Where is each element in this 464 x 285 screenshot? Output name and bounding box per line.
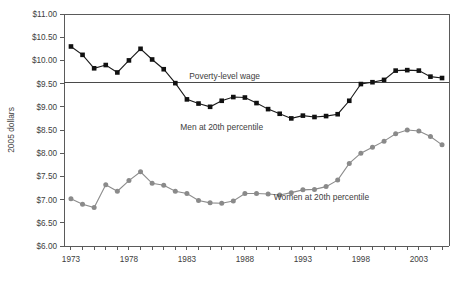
data-point-men xyxy=(324,114,329,119)
data-point-women xyxy=(103,182,108,187)
series-annotation-women: Women at 20th percentile xyxy=(274,192,370,202)
data-point-men xyxy=(417,68,422,73)
data-point-women xyxy=(347,161,352,166)
y-tick-label: $7.00 xyxy=(37,196,58,205)
chart-figure: $6.00$6.50$7.00$7.50$8.00$8.50$9.00$9.50… xyxy=(0,0,464,285)
data-point-men xyxy=(393,68,398,73)
data-point-women xyxy=(68,196,73,201)
data-point-men xyxy=(92,66,97,71)
x-tick-label: 1988 xyxy=(236,255,255,264)
data-point-women xyxy=(150,181,155,186)
data-point-men xyxy=(138,47,143,52)
x-tick-label: 1993 xyxy=(294,255,313,264)
y-tick-label: $7.50 xyxy=(37,172,58,181)
data-point-women xyxy=(440,142,445,147)
data-point-men xyxy=(185,97,190,102)
data-point-men xyxy=(289,116,294,121)
y-tick-label: $9.50 xyxy=(37,80,58,89)
data-point-men xyxy=(115,70,120,75)
y-tick-label: $11.00 xyxy=(33,10,58,19)
data-point-women xyxy=(92,205,97,210)
data-point-men xyxy=(405,68,410,73)
poverty-level-wage-label: Poverty-level wage xyxy=(189,71,260,81)
data-point-women xyxy=(393,131,398,136)
data-point-men xyxy=(127,58,132,63)
data-point-women xyxy=(405,128,410,133)
data-point-women xyxy=(231,198,236,203)
data-point-women xyxy=(428,134,433,139)
data-point-men xyxy=(173,81,178,86)
data-point-women xyxy=(219,201,224,206)
data-point-men xyxy=(440,76,445,81)
data-point-men xyxy=(428,74,433,79)
data-point-men xyxy=(277,111,282,116)
y-tick-label: $9.00 xyxy=(37,103,58,112)
data-point-men xyxy=(196,101,201,106)
data-point-women xyxy=(115,189,120,194)
data-point-women xyxy=(161,183,166,188)
data-point-men xyxy=(335,112,340,117)
data-point-women xyxy=(208,200,213,205)
data-point-men xyxy=(312,115,317,120)
data-point-men xyxy=(370,80,375,85)
data-point-men xyxy=(208,105,213,110)
x-tick-label: 2003 xyxy=(410,255,429,264)
data-point-men xyxy=(266,107,271,112)
y-tick-label: $6.50 xyxy=(37,219,58,228)
data-point-men xyxy=(359,82,364,87)
y-tick-label: $8.50 xyxy=(37,126,58,135)
x-tick-label: 1983 xyxy=(178,255,197,264)
line-chart: $6.00$6.50$7.00$7.50$8.00$8.50$9.00$9.50… xyxy=(0,0,464,285)
series-annotation-men: Men at 20th percentile xyxy=(180,122,263,132)
data-point-women xyxy=(80,202,85,207)
data-point-men xyxy=(219,98,224,103)
data-point-men xyxy=(347,98,352,103)
data-point-men xyxy=(301,113,306,118)
y-tick-label: $6.00 xyxy=(37,242,58,251)
data-point-women xyxy=(242,191,247,196)
data-point-men xyxy=(254,101,259,106)
y-tick-label: $10.00 xyxy=(32,56,57,65)
x-tick-label: 1998 xyxy=(352,255,371,264)
data-point-women xyxy=(335,178,340,183)
data-point-men xyxy=(69,44,74,49)
data-point-men xyxy=(150,57,155,62)
data-point-women xyxy=(358,151,363,156)
data-point-women xyxy=(196,198,201,203)
data-point-men xyxy=(231,95,236,100)
x-tick-label: 1978 xyxy=(120,255,139,264)
data-point-women xyxy=(382,139,387,144)
x-tick-label: 1973 xyxy=(62,255,81,264)
y-tick-label: $8.00 xyxy=(37,149,58,158)
data-point-women xyxy=(266,192,271,197)
data-point-women xyxy=(184,191,189,196)
data-point-women xyxy=(138,169,143,174)
data-point-men xyxy=(382,78,387,83)
data-point-women xyxy=(173,189,178,194)
data-point-men xyxy=(161,67,166,72)
data-point-women xyxy=(324,184,329,189)
data-point-women xyxy=(254,191,259,196)
y-tick-label: $10.50 xyxy=(32,33,57,42)
data-point-women xyxy=(416,128,421,133)
data-point-women xyxy=(126,178,131,183)
data-point-men xyxy=(103,63,108,68)
data-point-men xyxy=(243,95,248,100)
data-point-women xyxy=(370,145,375,150)
y-axis-title: 2005 dollars xyxy=(6,107,16,153)
data-point-men xyxy=(80,53,85,58)
